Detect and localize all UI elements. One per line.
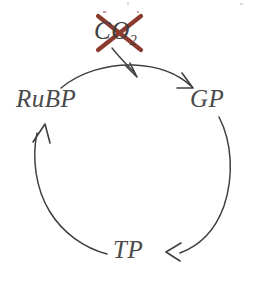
scan-speck xyxy=(137,11,139,13)
calvin-cycle-figure: .arc { fill: none; stroke: #3f3f3f; stro… xyxy=(0,0,262,281)
arrow-rubp-to-gp xyxy=(61,65,193,88)
scan-speck xyxy=(127,2,129,5)
co2-base-text: CO xyxy=(94,17,130,44)
arrow-tp-to-rubp xyxy=(33,124,107,254)
arrow-gp-to-tp xyxy=(166,117,230,261)
node-label-rubp: RuBP xyxy=(16,86,76,111)
co2-subscript: 2 xyxy=(130,33,138,48)
scan-speck xyxy=(103,11,106,13)
node-label-co2: CO2 xyxy=(94,18,137,48)
arrow-co2-input xyxy=(112,48,137,77)
scan-speck xyxy=(240,3,243,5)
node-label-gp: GP xyxy=(190,86,224,111)
node-label-tp: TP xyxy=(113,237,143,262)
